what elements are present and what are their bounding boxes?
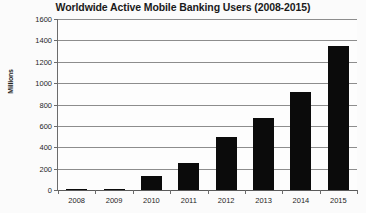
x-tick-label: 2009 (106, 196, 123, 205)
gridline (58, 19, 357, 20)
bar (253, 118, 274, 190)
bar (328, 46, 349, 190)
x-tick-label: 2013 (255, 196, 272, 205)
y-tick-label: 1000 (35, 79, 52, 88)
x-tick-mark (357, 190, 358, 194)
x-tick-mark (95, 190, 96, 194)
y-tick-label: 200 (39, 164, 52, 173)
y-tick-mark (54, 126, 58, 127)
bar-chart-figure: Worldwide Active Mobile Banking Users (2… (0, 0, 366, 213)
bar (66, 189, 87, 190)
bar (141, 176, 162, 190)
y-tick-label: 1600 (35, 15, 52, 24)
x-tick-label: 2012 (218, 196, 235, 205)
chart-title: Worldwide Active Mobile Banking Users (2… (0, 1, 366, 13)
gridline (58, 40, 357, 41)
bar (216, 137, 237, 190)
x-tick-label: 2008 (68, 196, 85, 205)
bar (178, 163, 199, 190)
y-tick-mark (54, 169, 58, 170)
x-tick-mark (170, 190, 171, 194)
x-tick-label: 2015 (330, 196, 347, 205)
y-tick-mark (54, 147, 58, 148)
y-tick-mark (54, 40, 58, 41)
gridline (58, 83, 357, 84)
x-tick-mark (282, 190, 283, 194)
y-tick-mark (54, 62, 58, 63)
y-tick-label: 600 (39, 121, 52, 130)
gridline (58, 105, 357, 106)
gridline (58, 126, 357, 127)
gridline (58, 169, 357, 170)
gridline (58, 147, 357, 148)
y-tick-mark (54, 105, 58, 106)
y-tick-mark (54, 19, 58, 20)
x-tick-mark (133, 190, 134, 194)
y-tick-mark (54, 83, 58, 84)
x-tick-label: 2011 (181, 196, 197, 205)
x-tick-mark (245, 190, 246, 194)
bar (104, 189, 125, 190)
y-tick-label: 1200 (35, 57, 52, 66)
y-axis-title: Millions (7, 52, 14, 112)
x-tick-label: 2010 (143, 196, 160, 205)
x-tick-mark (208, 190, 209, 194)
x-tick-mark (320, 190, 321, 194)
bar (290, 92, 311, 190)
y-tick-label: 1400 (35, 36, 52, 45)
plot-area: 02004006008001000120014001600 2008200920… (57, 19, 357, 190)
gridline (58, 62, 357, 63)
y-tick-label: 0 (48, 186, 52, 195)
x-tick-label: 2014 (293, 196, 310, 205)
y-tick-label: 400 (39, 143, 52, 152)
y-tick-label: 800 (39, 100, 52, 109)
x-tick-mark (58, 190, 59, 194)
